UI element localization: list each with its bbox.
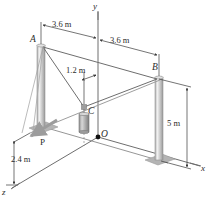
suspended-weight-body (79, 114, 89, 132)
engineering-diagram: y x z A B C O 3.6 m 3.6 m 1.2 m 5 m 2.4 … (0, 0, 211, 201)
dim-y-to-b-label: 3.6 m (110, 36, 129, 45)
y-axis-label: y (93, 2, 97, 11)
point-b-label: B (152, 63, 158, 73)
z-axis-tip (11, 183, 20, 189)
x-axis-tip (190, 163, 201, 166)
origin-dot (96, 135, 101, 140)
right-post-shaft (155, 77, 163, 160)
cable-a-c (43, 47, 84, 107)
left-post-cap (37, 44, 45, 47)
cable-a-b (43, 47, 157, 79)
dim-post-height-label: 5 m (167, 119, 180, 128)
left-post-group (29, 44, 58, 133)
point-a-label: A (30, 35, 36, 45)
cable-c-b (84, 79, 157, 107)
dim-24m-top-ext (14, 133, 30, 142)
point-c-label: C (88, 107, 94, 117)
dim-c-offset-group (82, 72, 96, 104)
node-c-connector (82, 105, 87, 110)
z-axis-label: z (2, 188, 6, 197)
x-axis-label: x (201, 164, 205, 173)
dim-y-to-b-group (100, 40, 159, 76)
dim-5m-top-ext (159, 79, 191, 87)
diagram-canvas (0, 0, 211, 201)
dim-a-to-y-label: 3.6 m (52, 20, 71, 29)
origin-label: O (101, 130, 108, 140)
force-p-label: P (40, 138, 45, 147)
dim-c-offset-label: 1.2 m (66, 66, 85, 75)
dim-z-depth-label: 2.4 m (11, 155, 30, 164)
